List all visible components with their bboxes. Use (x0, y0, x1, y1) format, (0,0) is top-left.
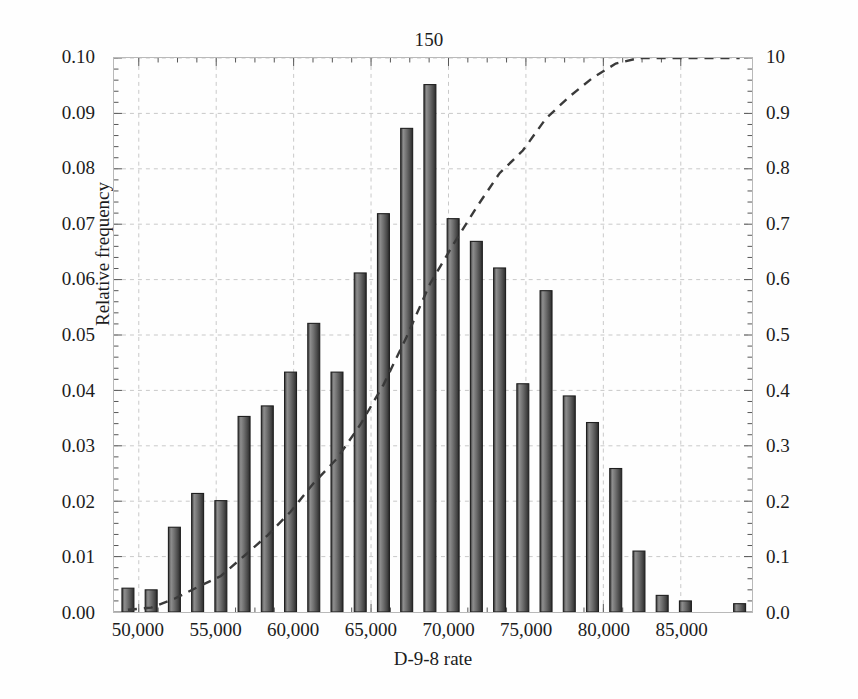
x-axis-label: D-9-8 rate (113, 648, 753, 670)
y-axis-left-tick: 0.10 (25, 47, 95, 66)
y-axis-right-tick: 0.4 (766, 381, 836, 400)
plot-area (113, 57, 753, 613)
y-axis-right-tick: 0.3 (766, 436, 836, 455)
y-axis-right-tick: 0.1 (766, 547, 836, 566)
y-axis-right-tick: 0.6 (766, 269, 836, 288)
y-axis-right-tick: 0.0 (766, 603, 836, 622)
x-axis-tick: 85,000 (622, 620, 742, 639)
y-axis-right-tick: 0.7 (766, 214, 836, 233)
y-axis-left-tick: 0.01 (25, 547, 95, 566)
y-axis-right-tick: 0.5 (766, 325, 836, 344)
y-axis-right-tick: 0.2 (766, 492, 836, 511)
y-axis-left-tick: 0.06 (25, 269, 95, 288)
y-axis-right-tick: 0.9 (766, 103, 836, 122)
y-axis-right-tick: 10 (766, 47, 836, 66)
plot-canvas (114, 58, 752, 612)
y-axis-left-tick: 0.07 (25, 214, 95, 233)
chart-root: 150 Relative frequency Cumulative probab… (0, 0, 858, 699)
y-axis-right-tick: 0.8 (766, 158, 836, 177)
y-axis-left-tick: 0.08 (25, 158, 95, 177)
y-axis-left-tick: 0.02 (25, 492, 95, 511)
y-axis-left-tick: 0.03 (25, 436, 95, 455)
bar-series (122, 85, 746, 612)
y-axis-left-label: Relative frequency (92, 144, 114, 364)
y-axis-left-tick: 0.04 (25, 381, 95, 400)
chart-title: 150 (0, 29, 858, 51)
y-axis-left-tick: 0.09 (25, 103, 95, 122)
y-axis-left-tick: 0.05 (25, 325, 95, 344)
